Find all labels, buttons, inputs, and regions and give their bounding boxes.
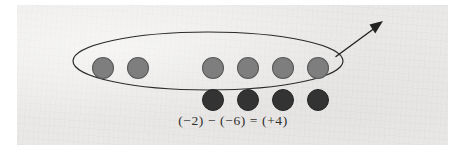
counter-dark [238, 90, 259, 111]
counter-light [203, 58, 224, 79]
counter-light [128, 58, 149, 79]
counter-light [238, 58, 259, 79]
counter-light [273, 58, 294, 79]
figure-canvas: (−2) − (−6) = (+4) [0, 0, 466, 153]
counter-dark [273, 90, 294, 111]
dark-counters-row [203, 90, 329, 111]
equation-label: (−2) − (−6) = (+4) [0, 113, 466, 129]
removal-arrow [336, 21, 383, 57]
arrow-head-icon [370, 21, 384, 33]
counter-dark [308, 90, 329, 111]
counter-light [93, 58, 114, 79]
light-counters-row [93, 58, 329, 79]
counter-dark [203, 90, 224, 111]
diagram-svg [0, 0, 466, 153]
counter-light [308, 58, 329, 79]
